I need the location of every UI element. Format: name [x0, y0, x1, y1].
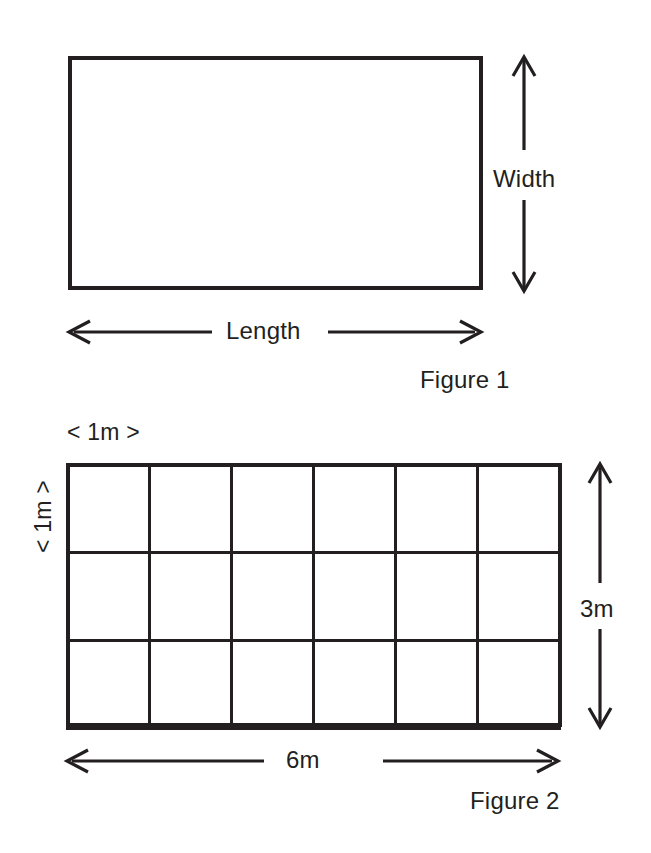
grid-cell — [150, 465, 232, 553]
grid-cell — [232, 465, 314, 553]
grid-cell — [478, 641, 560, 729]
grid-row — [68, 641, 560, 729]
figure-2-grid-wrapper — [66, 463, 561, 730]
grid-cell — [150, 641, 232, 729]
diagram-page: Width Length Figure 1 < 1m > < 1m > — [0, 0, 651, 853]
length-label: Length — [226, 319, 301, 343]
figure-2-caption: Figure 2 — [470, 789, 560, 813]
grid-cell — [150, 553, 232, 641]
width-label: Width — [493, 167, 555, 191]
height-arrow-up-icon — [581, 459, 621, 585]
grid-cell — [68, 641, 150, 729]
figure-1-rectangle — [68, 56, 483, 290]
grid-cell — [314, 465, 396, 553]
height-label: 3m — [580, 597, 614, 621]
grid-cell — [396, 641, 478, 729]
cell-height-label: < 1m > — [32, 480, 55, 553]
width-arrow-down-icon — [505, 200, 545, 295]
figure-2-grid — [66, 463, 561, 730]
grid-cell — [314, 641, 396, 729]
grid-cell — [396, 465, 478, 553]
length-6m-arrow-left-icon — [62, 745, 266, 777]
length-arrow-right-icon — [328, 316, 486, 348]
length-6m-label: 6m — [286, 748, 320, 772]
grid-cell — [314, 553, 396, 641]
height-arrow-down-icon — [581, 629, 621, 731]
grid-cell — [232, 553, 314, 641]
grid-row — [68, 553, 560, 641]
length-arrow-left-icon — [64, 316, 214, 348]
cell-width-label: < 1m > — [67, 421, 140, 444]
grid-cell — [478, 553, 560, 641]
grid-cell — [232, 641, 314, 729]
width-arrow-up-icon — [505, 52, 545, 152]
grid-cell — [396, 553, 478, 641]
figure-1-caption: Figure 1 — [420, 368, 510, 392]
grid-cell — [68, 553, 150, 641]
grid-row — [68, 465, 560, 553]
grid-cell — [68, 465, 150, 553]
length-6m-arrow-right-icon — [383, 745, 563, 777]
grid-cell — [478, 465, 560, 553]
